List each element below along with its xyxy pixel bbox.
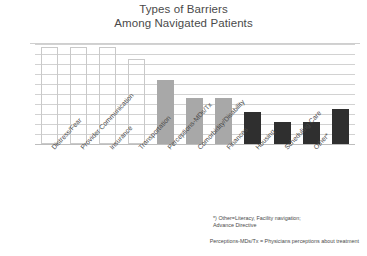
- bar: [157, 80, 174, 144]
- chart-title: Types of Barriers Among Navigated Patien…: [0, 3, 367, 30]
- bar: [41, 47, 58, 144]
- chart-title-line-1: Types of Barriers: [0, 3, 367, 17]
- footnote-other-line-1: *) Other=Literacy, Facility navigation;: [213, 215, 353, 222]
- footnote-other-line-2: Advance Directive: [213, 222, 353, 229]
- chart-title-line-2: Among Navigated Patients: [0, 17, 367, 31]
- category-axis-labels: Distress/FearProvider CommunicationInsur…: [0, 146, 367, 216]
- footnote-other: *) Other=Literacy, Facility navigation; …: [213, 215, 353, 229]
- bar: [332, 109, 349, 144]
- footnote-perceptions: Perceptions-MDs/Tx = Physicians percepti…: [129, 238, 359, 245]
- bar-chart-figure: Types of Barriers Among Navigated Patien…: [0, 0, 367, 256]
